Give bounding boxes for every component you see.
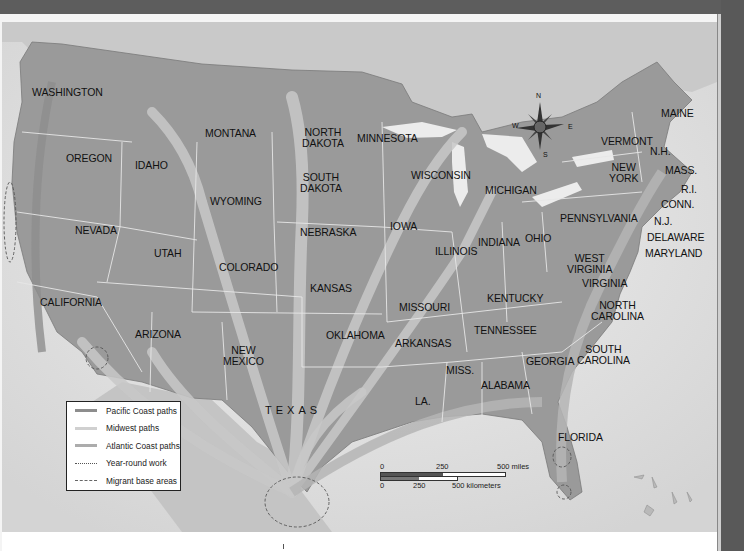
state-label-r-i: R.I. xyxy=(681,184,697,195)
state-label-line: VIRGINIA xyxy=(567,264,612,275)
state-label-line: YORK xyxy=(609,173,638,184)
dotted-line-swatch-icon xyxy=(75,463,97,464)
state-label-maryland: MARYLAND xyxy=(645,248,702,259)
right-frame-band xyxy=(721,0,744,551)
state-label-line: CAROLINA xyxy=(591,311,644,322)
legend-item-year-round: Year-round work xyxy=(67,455,180,473)
compass-west-label: W xyxy=(512,120,519,131)
state-label-kansas: KANSAS xyxy=(310,283,352,294)
state-label-new-mexico: NEWMEXICO xyxy=(223,345,264,367)
pacific-path-swatch-icon xyxy=(75,409,97,412)
midwest-path-swatch-icon xyxy=(75,427,97,430)
state-label-oregon: OREGON xyxy=(66,153,112,164)
dashed-line-swatch-icon xyxy=(75,480,97,481)
scale-km-0: 0 xyxy=(380,481,384,490)
state-label-south-carolina: SOUTHCAROLINA xyxy=(577,344,630,366)
top-frame-band xyxy=(0,0,744,14)
scale-km-250: 250 xyxy=(413,481,426,490)
legend-label: Atlantic Coast paths xyxy=(106,441,180,451)
state-label-line: DAKOTA xyxy=(300,183,342,194)
state-label-colorado: COLORADO xyxy=(219,262,278,273)
state-label-washington: WASHINGTON xyxy=(32,87,103,98)
legend-label: Midwest paths xyxy=(106,423,159,433)
state-label-pennsylvania: PENNSYLVANIA xyxy=(560,213,638,224)
state-label-iowa: IOWA xyxy=(390,221,417,232)
state-label-delaware: DELAWARE xyxy=(647,232,704,243)
compass-south-label: S xyxy=(543,149,548,160)
state-label-arizona: ARIZONA xyxy=(135,329,181,340)
state-label-indiana: INDIANA xyxy=(478,237,520,248)
state-label-line: MEXICO xyxy=(223,356,264,367)
scale-bar: 0 250 500 miles 0 250 500 kilometers xyxy=(378,462,518,490)
state-label-maine: MAINE xyxy=(661,108,694,119)
legend-item-midwest: Midwest paths xyxy=(67,420,180,438)
state-label-kentucky: KENTUCKY xyxy=(487,293,543,304)
atlantic-path-swatch-icon xyxy=(75,444,97,447)
state-label-n-h: N.H. xyxy=(650,146,671,157)
state-label-mass: MASS. xyxy=(665,165,697,176)
state-label-miss: MISS. xyxy=(446,365,474,376)
state-label-missouri: MISSOURI xyxy=(399,302,450,313)
compass-east-label: E xyxy=(568,121,573,132)
state-label-south-dakota: SOUTHDAKOTA xyxy=(300,172,342,194)
legend-label: Migrant base areas xyxy=(106,476,177,486)
state-label-georgia: GEORGIA xyxy=(526,356,574,367)
state-label-n-j: N.J. xyxy=(654,216,672,227)
scale-mile-500: 500 miles xyxy=(497,462,529,471)
state-label-california: CALIFORNIA xyxy=(40,297,102,308)
map-legend: Pacific Coast paths Midwest paths Atlant… xyxy=(66,401,181,491)
scale-mile-0: 0 xyxy=(380,462,384,471)
state-label-arkansas: ARKANSAS xyxy=(395,338,451,349)
center-tick-mark xyxy=(283,544,284,549)
compass-north-label: N xyxy=(536,90,541,101)
state-label-utah: UTAH xyxy=(154,248,181,259)
state-label-illinois: ILLINOIS xyxy=(435,246,477,257)
scale-mile-250: 250 xyxy=(436,462,449,471)
legend-label: Pacific Coast paths xyxy=(106,406,177,416)
state-label-minnesota: MINNESOTA xyxy=(357,133,418,144)
state-label-nebraska: NEBRASKA xyxy=(300,227,356,238)
state-label-tennessee: TENNESSEE xyxy=(474,325,537,336)
state-label-florida: FLORIDA xyxy=(558,432,603,443)
state-label-nevada: NEVADA xyxy=(75,225,117,236)
state-label-north-dakota: NORTHDAKOTA xyxy=(302,127,344,149)
state-label-oklahoma: OKLAHOMA xyxy=(326,330,385,341)
state-label-north-carolina: NORTHCAROLINA xyxy=(591,300,644,322)
compass-icon xyxy=(510,96,570,156)
state-label-west-virginia: WESTVIRGINIA xyxy=(567,253,612,275)
state-label-new-york: NEWYORK xyxy=(609,162,638,184)
state-label-line: DAKOTA xyxy=(302,138,344,149)
bottom-margin xyxy=(2,532,717,551)
legend-item-base-areas: Migrant base areas xyxy=(67,472,180,490)
state-label-wisconsin: WISCONSIN xyxy=(411,170,471,181)
legend-label: Year-round work xyxy=(106,458,167,468)
state-label-alabama: ALABAMA xyxy=(481,380,530,391)
state-label-texas: TEXAS xyxy=(265,405,321,416)
state-label-wyoming: WYOMING xyxy=(210,196,262,207)
state-label-vermont: VERMONT xyxy=(601,136,653,147)
state-label-conn: CONN. xyxy=(661,199,694,210)
state-label-ohio: OHIO xyxy=(525,233,551,244)
state-label-idaho: IDAHO xyxy=(135,160,168,171)
compass-rose: N E S W xyxy=(510,96,570,156)
legend-item-atlantic: Atlantic Coast paths xyxy=(67,437,180,455)
state-label-michigan: MICHIGAN xyxy=(485,185,537,196)
state-label-la: LA. xyxy=(415,396,430,407)
scale-km-500: 500 kilometers xyxy=(452,481,501,490)
state-label-virginia: VIRGINIA xyxy=(582,278,627,289)
legend-item-pacific: Pacific Coast paths xyxy=(67,402,180,420)
state-label-montana: MONTANA xyxy=(205,128,256,139)
state-label-line: CAROLINA xyxy=(577,355,630,366)
